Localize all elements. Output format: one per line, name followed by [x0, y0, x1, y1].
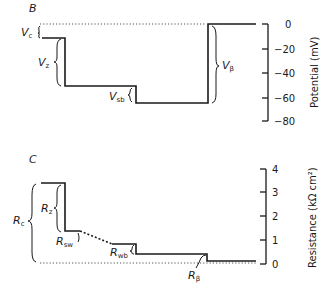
rsw-brace: [78, 233, 79, 242]
tick-label: 1: [272, 235, 278, 246]
vc-label: Vc: [21, 26, 33, 40]
rc-label: Rc: [13, 214, 25, 228]
rsw-label: Rsw: [56, 235, 73, 249]
tick-label: 3: [272, 187, 278, 198]
vsb-brace: [128, 88, 132, 102]
vbeta-label: Vβ: [222, 59, 234, 73]
potential-axis: 0 −20 −40 −60 −80 Potential (mV): [262, 19, 320, 127]
resistance-trace-tail: [112, 244, 256, 261]
vbeta-brace: [212, 26, 219, 103]
panel-c: C Rc Rz Rsw Rwb Rβ 4 3: [13, 153, 318, 283]
rwb-brace: [130, 245, 134, 254]
vc-brace: [38, 26, 40, 38]
potential-axis-title: Potential (mV): [309, 37, 320, 108]
rwb-label: Rwb: [110, 246, 128, 260]
panel-c-letter: C: [29, 153, 37, 166]
vz-brace: [54, 39, 61, 86]
rc-brace: [28, 184, 36, 262]
panel-b: B Vc Vz Vsb Vβ 0 −20 −40 −60 −80: [21, 2, 320, 127]
resistance-trace-sloped: [80, 231, 112, 244]
panel-b-letter: B: [29, 2, 37, 15]
tick-label: 0: [272, 259, 278, 270]
vsb-label: Vsb: [109, 90, 125, 104]
tick-label: 4: [272, 164, 278, 175]
rbeta-pointer: [196, 255, 206, 268]
tick-label: 2: [272, 211, 278, 222]
tick-label: −80: [274, 116, 295, 127]
rbeta-label: Rβ: [188, 269, 200, 283]
tick-label: −40: [274, 68, 295, 79]
tick-label: −60: [274, 93, 295, 104]
resistance-axis-title: Resistance (kΩ cm²): [307, 167, 318, 268]
figure: B Vc Vz Vsb Vβ 0 −20 −40 −60 −80: [0, 0, 324, 295]
resistance-axis: 4 3 2 1 0 Resistance (kΩ cm²): [260, 164, 318, 270]
vz-label: Vz: [38, 56, 50, 70]
tick-label: −20: [274, 44, 295, 55]
rz-brace: [54, 185, 61, 232]
tick-label: 0: [285, 19, 291, 30]
rz-label: Rz: [41, 202, 53, 216]
